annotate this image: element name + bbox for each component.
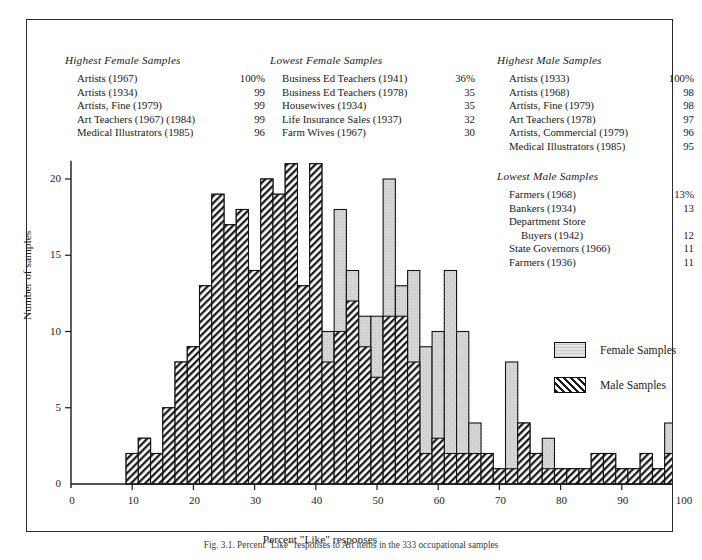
bar-male bbox=[273, 194, 285, 484]
bar-male bbox=[554, 469, 566, 484]
bar-male bbox=[579, 469, 591, 484]
figure-caption: Fig. 3.1. Percent "Like" responses to Ar… bbox=[0, 540, 702, 560]
x-tick-label: 100 bbox=[674, 494, 694, 506]
chart-legend: Female Samples Male Samples bbox=[554, 342, 676, 412]
x-tick-label: 10 bbox=[123, 494, 143, 506]
legend-swatch-female bbox=[554, 342, 586, 358]
bar-male bbox=[603, 454, 615, 485]
bar-male bbox=[310, 164, 322, 484]
bar-male bbox=[322, 362, 334, 484]
bar-male bbox=[567, 469, 579, 484]
legend-swatch-male bbox=[554, 377, 586, 393]
x-tick-label: 30 bbox=[246, 494, 266, 506]
bar-male bbox=[297, 286, 309, 484]
bar-male bbox=[383, 316, 395, 484]
bar-male bbox=[334, 332, 346, 485]
bar-female bbox=[506, 362, 518, 484]
bar-male bbox=[359, 347, 371, 484]
figure-frame: Highest Female Samples Artists (1967)100… bbox=[26, 19, 673, 532]
bar-male bbox=[518, 423, 530, 484]
x-tick-label: 90 bbox=[613, 494, 633, 506]
y-tick-label: 20 bbox=[39, 172, 61, 184]
bar-male bbox=[506, 469, 518, 484]
legend-item-male: Male Samples bbox=[554, 377, 676, 393]
bar-male bbox=[187, 347, 199, 484]
bar-male bbox=[408, 362, 420, 484]
x-tick-label: 80 bbox=[552, 494, 572, 506]
bar-male bbox=[175, 362, 187, 484]
legend-item-female: Female Samples bbox=[554, 342, 676, 358]
bar-male bbox=[138, 438, 150, 484]
y-tick-label: 15 bbox=[39, 248, 61, 260]
bar-male bbox=[163, 408, 175, 484]
legend-label-male: Male Samples bbox=[600, 379, 666, 392]
bar-male bbox=[469, 454, 481, 485]
bar-male bbox=[261, 179, 273, 484]
bar-male bbox=[212, 194, 224, 484]
bar-male bbox=[444, 454, 456, 485]
y-tick-label: 5 bbox=[39, 401, 61, 413]
bar-male bbox=[530, 454, 542, 485]
bar-male bbox=[665, 454, 672, 485]
y-axis-label: Number of samples bbox=[21, 231, 33, 320]
bar-male bbox=[420, 454, 432, 485]
bar-male bbox=[616, 469, 628, 484]
bar-female bbox=[444, 271, 456, 485]
bar-male bbox=[224, 225, 236, 484]
x-tick-label: 20 bbox=[184, 494, 204, 506]
x-tick-label: 60 bbox=[429, 494, 449, 506]
bar-male bbox=[346, 301, 358, 484]
x-tick-label: 40 bbox=[307, 494, 327, 506]
bar-male bbox=[457, 454, 469, 485]
bar-male bbox=[395, 316, 407, 484]
x-tick-label: 50 bbox=[368, 494, 388, 506]
x-tick-label: 70 bbox=[490, 494, 510, 506]
y-tick-label: 10 bbox=[39, 325, 61, 337]
y-tick-label: 0 bbox=[39, 477, 61, 489]
bar-male bbox=[493, 469, 505, 484]
histogram-chart bbox=[27, 20, 672, 531]
bar-male bbox=[248, 271, 260, 485]
bar-male bbox=[236, 210, 248, 485]
bar-male bbox=[640, 454, 652, 485]
bar-male bbox=[200, 286, 212, 484]
bar-male bbox=[432, 438, 444, 484]
bar-male bbox=[126, 454, 138, 485]
bar-male bbox=[285, 164, 297, 484]
bar-male bbox=[151, 454, 163, 485]
figure-page: Highest Female Samples Artists (1967)100… bbox=[0, 0, 702, 560]
legend-label-female: Female Samples bbox=[600, 344, 676, 357]
bar-male bbox=[652, 469, 664, 484]
bar-male bbox=[591, 454, 603, 485]
bar-male bbox=[371, 377, 383, 484]
bar-male bbox=[481, 454, 493, 485]
bar-male bbox=[628, 469, 640, 484]
bar-male bbox=[542, 469, 554, 484]
bars-male-series bbox=[126, 164, 672, 484]
x-tick-label: 0 bbox=[62, 494, 82, 506]
